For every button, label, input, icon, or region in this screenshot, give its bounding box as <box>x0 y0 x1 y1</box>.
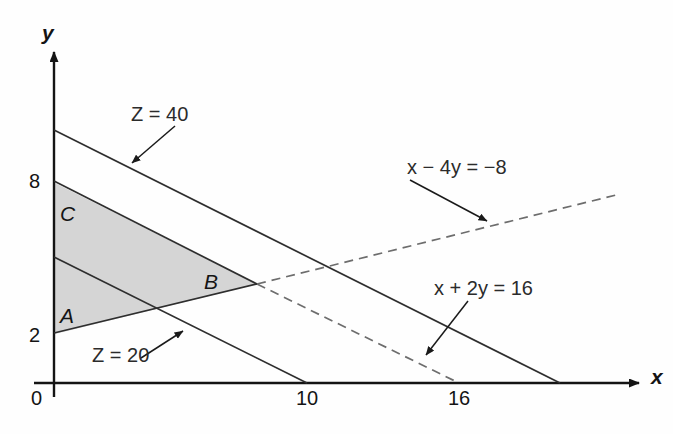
y-tick-label-8: 8 <box>29 171 40 191</box>
objective-label-z20: Z = 20 <box>92 345 149 365</box>
origin-tick-label: 0 <box>31 388 42 408</box>
z40-leader-arrow <box>132 126 175 163</box>
linear-programming-figure: y x 0 8 2 10 16 C B A Z = 40 Z = 20 x − … <box>0 0 673 434</box>
vertex-label-b: B <box>204 271 218 292</box>
plot-canvas <box>0 0 673 434</box>
vertex-label-a: A <box>60 305 74 326</box>
objective-label-z40: Z = 40 <box>131 104 188 124</box>
constraint1-leader-arrow <box>410 180 487 221</box>
feasible-region-shading <box>55 183 257 334</box>
y-tick-label-2: 2 <box>29 325 40 345</box>
x-tick-label-10: 10 <box>296 388 318 408</box>
constraint-label-x-minus-4y: x − 4y = −8 <box>407 157 507 177</box>
constraint-line-x-plus-2y-16 <box>257 284 459 383</box>
constraint-label-x-plus-2y: x + 2y = 16 <box>434 278 533 298</box>
constraint2-leader-arrow <box>426 301 468 355</box>
x-tick-label-16: 16 <box>448 388 470 408</box>
y-axis-name: y <box>42 22 54 43</box>
constraint-line-x-minus-4y-neg8 <box>257 194 620 284</box>
x-axis-name: x <box>651 366 663 387</box>
vertex-label-c: C <box>60 203 75 224</box>
